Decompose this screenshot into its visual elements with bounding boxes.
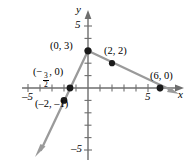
fraction-numerator: 3 <box>43 72 49 80</box>
fraction-label-open: (− <box>33 66 42 77</box>
y-tick-label-neg5: ‒5 <box>71 143 82 154</box>
data-point-0-3[interactable] <box>84 47 91 54</box>
x-tick-label-neg5: ‒5 <box>22 91 33 102</box>
x-axis-label: x <box>178 89 183 100</box>
fraction-denominator: 2 <box>43 80 49 89</box>
data-point-6-0[interactable] <box>157 85 164 92</box>
coordinate-plane-figure: y x 5 ‒5 ‒5 5 (0, 3) (2, 2) (6, 0) (‒2, … <box>0 0 191 167</box>
x-tick-label-5: 5 <box>145 91 151 102</box>
point-label-6-0: (6, 0) <box>150 71 173 82</box>
point-label-neg2-neg1: (‒2, ‒1) <box>35 99 68 110</box>
point-label-0-3: (0, 3) <box>50 41 73 52</box>
graph-canvas <box>0 0 191 167</box>
fraction-label-close: , 0) <box>49 66 63 77</box>
y-axis-label: y <box>76 4 81 15</box>
data-point-2-2[interactable] <box>109 60 115 66</box>
fraction-three-halves: 32 <box>43 72 49 89</box>
point-label-2-2: (2, 2) <box>104 46 127 57</box>
data-point-neg3over2-0[interactable] <box>67 85 74 92</box>
y-tick-label-5: 5 <box>75 19 81 30</box>
point-label-neg3over2-0: (−32, 0) <box>33 67 63 89</box>
